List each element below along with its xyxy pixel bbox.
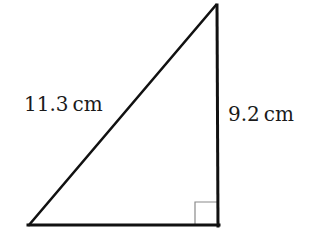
vertical-leg-length-label: 9.2 cm [228, 102, 294, 126]
triangle-diagram: 11.3 cm 9.2 cm [0, 0, 313, 236]
vertical-leg-side [217, 5, 218, 226]
hypotenuse-length-label: 11.3 cm [24, 92, 103, 116]
